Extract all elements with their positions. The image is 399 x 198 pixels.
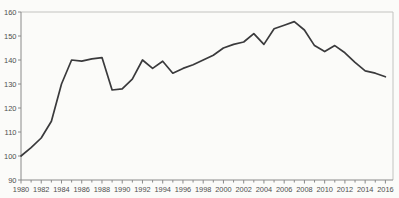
x-tick-label: 2008 xyxy=(296,185,312,194)
x-tick-label: 2014 xyxy=(357,185,373,194)
x-tick-label: 1994 xyxy=(154,185,170,194)
x-tick-label: 2002 xyxy=(235,185,251,194)
x-tick-label: 2010 xyxy=(316,185,332,194)
x-tick-label: 2000 xyxy=(215,185,231,194)
y-tick-label: 110 xyxy=(5,128,17,137)
y-tick-label: 130 xyxy=(4,80,17,89)
y-tick-label: 120 xyxy=(4,104,17,113)
x-tick-label: 1992 xyxy=(134,185,150,194)
x-tick-label: 1980 xyxy=(13,185,29,194)
line-chart: 9010011012013014015016019801982198419861… xyxy=(0,0,399,198)
x-tick-label: 2006 xyxy=(276,185,292,194)
y-tick-label: 150 xyxy=(4,32,17,41)
x-tick-label: 1982 xyxy=(33,185,49,194)
x-tick-label: 1996 xyxy=(175,185,191,194)
chart-figure: 9010011012013014015016019801982198419861… xyxy=(0,0,399,198)
y-tick-label: 100 xyxy=(4,152,17,161)
x-tick-label: 1998 xyxy=(195,185,211,194)
y-tick-label: 140 xyxy=(4,56,17,65)
y-tick-label: 160 xyxy=(4,8,17,17)
x-tick-label: 1990 xyxy=(114,185,130,194)
x-tick-label: 1988 xyxy=(94,185,110,194)
x-tick-label: 2012 xyxy=(337,185,353,194)
y-tick-label: 90 xyxy=(8,176,16,185)
x-tick-label: 2004 xyxy=(256,185,272,194)
x-tick-label: 2016 xyxy=(377,185,393,194)
x-tick-label: 1986 xyxy=(74,185,90,194)
data-series-line xyxy=(21,22,385,156)
x-tick-label: 1984 xyxy=(53,185,69,194)
